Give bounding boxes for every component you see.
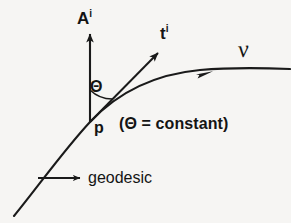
acceleration-vector-superscript: i	[89, 8, 92, 19]
diagram-canvas: Ai ti Θ p (Θ = constant) ᴠ geodesic	[0, 0, 291, 223]
geodesic-curve	[14, 68, 290, 216]
diagram-vector-layer	[0, 0, 291, 223]
tangent-vector-superscript: i	[166, 23, 169, 34]
point-label: p	[94, 120, 104, 136]
angle-condition-label: (Θ = constant)	[119, 116, 228, 132]
acceleration-vector-symbol: A	[77, 9, 89, 28]
tangent-vector-label: ti	[160, 24, 168, 42]
geodesic-label: geodesic	[88, 170, 152, 186]
acceleration-vector-label: Ai	[77, 9, 92, 27]
curve-direction-arrowhead	[196, 71, 213, 78]
angle-label: Θ	[90, 79, 102, 95]
